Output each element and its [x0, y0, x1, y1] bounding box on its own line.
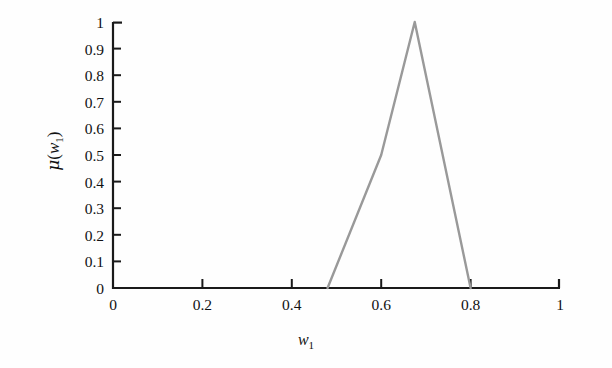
- axis-spines: [113, 22, 560, 288]
- chart-figure: 1 0.9 0.8 0.7 0.6 0.5 0.4 0.3 0.2 0.1 0 …: [0, 0, 612, 368]
- plot-canvas: [0, 0, 612, 368]
- y-axis-ticks: [113, 49, 121, 262]
- membership-function-curve: [328, 22, 471, 288]
- x-axis-ticks: [202, 279, 470, 288]
